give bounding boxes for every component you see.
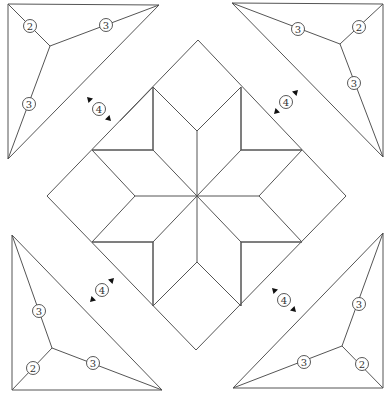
label-number: 2: [27, 21, 33, 32]
arrow-head-icon: [292, 90, 298, 96]
label-number: 4: [283, 97, 289, 108]
segment-label: 3: [353, 298, 366, 311]
star-edge: [120, 87, 153, 121]
corner-triangle-top-right: 323: [232, 3, 383, 157]
segment-label: 2: [353, 21, 366, 34]
corner-triangle-top-left: 233: [8, 4, 159, 159]
star-ray: [153, 196, 197, 242]
segment-label: 3: [23, 98, 36, 111]
arrow-head-icon: [290, 306, 296, 312]
rotate-marker: 4: [274, 90, 298, 114]
fold-line: [340, 44, 383, 157]
segment-label: 2: [24, 20, 37, 33]
label-number: 3: [26, 99, 32, 110]
label-number: 4: [99, 285, 105, 296]
label-number: 3: [36, 306, 42, 317]
label-number: 3: [295, 24, 301, 35]
label-number: 2: [356, 22, 362, 33]
label-number: 4: [281, 295, 287, 306]
fold-line: [232, 3, 340, 44]
fold-line: [342, 233, 383, 346]
center-square: [47, 40, 346, 350]
rotate-label: 4: [93, 103, 106, 116]
segment-label: 3: [348, 77, 361, 90]
fold-line: [52, 348, 162, 390]
arrow-head-icon: [87, 97, 93, 103]
segment-label: 2: [27, 362, 40, 375]
arrow-head-icon: [90, 296, 96, 302]
corner-triangle-bottom-right: 323: [233, 233, 383, 388]
label-number: 3: [103, 20, 109, 31]
label-number: 2: [30, 363, 36, 374]
segment-label: 3: [100, 19, 113, 32]
rotate-marker: 4: [272, 288, 296, 312]
segment-label: 3: [87, 357, 100, 370]
rotate-label: 4: [96, 284, 109, 297]
arrow-head-icon: [108, 278, 114, 284]
label-number: 3: [90, 358, 96, 369]
fold-line: [233, 346, 342, 388]
rotate-marker: 4: [90, 278, 114, 302]
rotate-marker: 4: [87, 97, 111, 121]
segment-label: 3: [292, 23, 305, 36]
segment-label: 3: [33, 305, 46, 318]
star-ray: [197, 150, 241, 196]
segment-label: 3: [298, 356, 311, 369]
rotate-label: 4: [278, 294, 291, 307]
arrow-head-icon: [274, 108, 280, 114]
star-ray: [197, 196, 241, 242]
arrow-head-icon: [272, 288, 278, 294]
rotate-label: 4: [280, 96, 293, 109]
label-number: 4: [96, 104, 102, 115]
label-number: 2: [359, 359, 365, 370]
label-number: 3: [356, 299, 362, 310]
label-number: 3: [301, 357, 307, 368]
star-ray: [153, 150, 197, 196]
corner-triangle-bottom-left: 323: [12, 235, 162, 390]
segment-label: 2: [356, 358, 369, 371]
quilt-diagram: 2333233233234444: [0, 0, 391, 396]
fold-line: [12, 235, 52, 348]
arrow-head-icon: [105, 115, 111, 121]
label-number: 3: [351, 78, 357, 89]
